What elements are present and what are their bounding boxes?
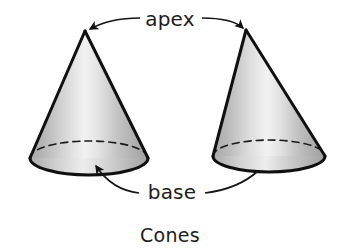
base-label: base	[148, 180, 196, 204]
left-cone-base-disc	[30, 158, 148, 175]
right-cone	[213, 30, 325, 172]
left-cone	[30, 31, 148, 175]
apex-leader-right	[202, 18, 243, 28]
base-leader-right	[205, 171, 258, 193]
right-cone-base-disc	[213, 156, 325, 172]
apex-label: apex	[145, 7, 195, 31]
right-cone-body	[213, 30, 325, 172]
left-cone-body	[30, 31, 148, 175]
figure-caption: Cones	[140, 224, 200, 246]
apex-leader-left	[90, 18, 140, 29]
cones-diagram: apex base Cones	[0, 0, 341, 250]
diagram-canvas: apex base Cones	[0, 0, 341, 250]
